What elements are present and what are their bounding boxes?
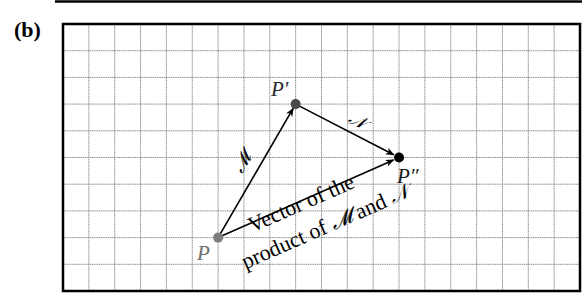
panel-label: (b) [14,17,41,42]
point-p-double-prime-label: P″ [396,164,419,188]
point-p [213,233,223,243]
point-p-prime [291,99,301,109]
vector-diagram: (b) 𝓜 𝒩 Vector of the product of 𝓜 and 𝒩… [0,0,582,304]
point-p-label: P [196,241,210,265]
point-p-prime-label: P′ [270,77,289,101]
vector-m-label: 𝓜 [227,143,258,176]
vector-n-arrow [296,104,394,155]
grid [63,24,580,291]
point-p-double-prime [394,153,404,163]
